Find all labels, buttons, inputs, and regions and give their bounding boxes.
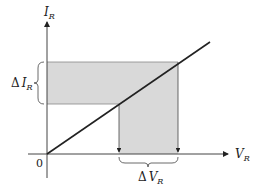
origin-label: 0 — [36, 157, 43, 170]
delta-i-shaded-band — [47, 62, 178, 104]
iv-diagram: IR VR 0 ΔIR ΔVR — [0, 0, 257, 195]
y-axis-label: IR — [43, 5, 55, 21]
delta-v-shaded-band — [119, 104, 178, 154]
delta-i-label: ΔIR — [11, 76, 32, 92]
x-axis-label: VR — [235, 147, 250, 163]
delta-v-label: ΔVR — [138, 170, 163, 186]
delta-v-brace — [119, 157, 178, 167]
delta-i-brace — [34, 62, 44, 104]
